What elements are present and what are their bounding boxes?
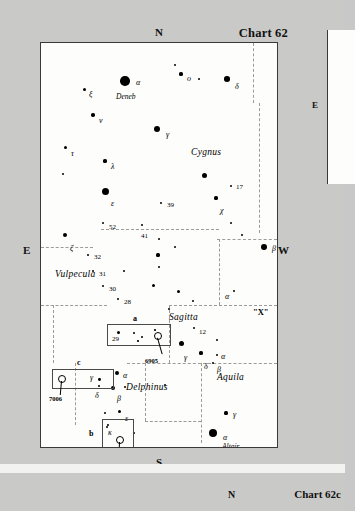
proper-name-label: Deneb xyxy=(116,93,136,101)
star-label-12-aquilae: 12 xyxy=(199,329,206,336)
star-label-gamma-sagittae: γ xyxy=(184,354,187,362)
star-label-beta-cygni-albireo: β xyxy=(272,245,276,253)
star-field-star-j xyxy=(177,290,180,293)
star-alpha-delphini xyxy=(115,371,119,375)
constellation-label-sagitta: Sagitta xyxy=(169,313,198,323)
constellation-boundary xyxy=(253,43,254,103)
star-label-epsilon-cygni: ε xyxy=(111,200,114,208)
star-label-delta-cygni: δ xyxy=(235,83,239,91)
chart-panel-62: Chart 62 N S E W αξνοδγτλ17εχ395241ζβ323… xyxy=(22,22,290,470)
constellation-boundary xyxy=(217,239,277,240)
star-field-star-m xyxy=(216,339,219,342)
star-label-delta-delphini: δ xyxy=(95,392,99,400)
page-title: Chart 62 xyxy=(239,26,288,41)
neighbor-cardinal-east: E xyxy=(312,100,318,110)
constellation-boundary xyxy=(169,305,277,306)
star-field-star-f xyxy=(241,234,243,236)
neighbor-cardinal-north: N xyxy=(228,489,235,500)
inset-star xyxy=(154,329,156,331)
star-label-31-cygni: 31 xyxy=(99,271,106,278)
constellation-boundary xyxy=(259,103,260,233)
star-delta-cygni xyxy=(224,76,230,82)
star-epsilon-delphini xyxy=(118,410,121,413)
neighbor-chart-title: Chart 62c xyxy=(294,488,341,500)
star-label-52-cygni: 52 xyxy=(109,224,116,231)
star-32-cygni xyxy=(87,254,90,257)
constellation-boundary xyxy=(219,239,220,305)
star-17-cygni xyxy=(230,185,233,188)
star-field-star-g xyxy=(123,270,125,272)
inset-star-label: γ xyxy=(90,374,93,382)
star-field-star-a xyxy=(174,64,176,66)
star-label-beta-delphini: β xyxy=(117,395,121,403)
star-epsilon-cygni xyxy=(102,188,109,195)
star-beta-cygni-albireo xyxy=(261,244,267,250)
proper-name-label: Altair xyxy=(222,443,240,448)
constellation-label-delphinus: Delphinus xyxy=(126,383,168,393)
constellation-boundary xyxy=(145,421,201,422)
star-alpha-vulpeculae xyxy=(233,290,236,293)
star-label-32-cygni: 32 xyxy=(94,254,101,261)
ngc-label-7006: 7006 xyxy=(49,396,62,403)
star-label-tau-cygni: τ xyxy=(71,150,74,158)
star-tau-cygni xyxy=(64,146,67,149)
star-label-zeta-cygni: ζ xyxy=(70,245,73,253)
star-gamma-cygni xyxy=(154,126,160,132)
inset-id-a: a xyxy=(133,315,137,323)
constellation-boundary xyxy=(41,305,107,306)
star-field-star-h xyxy=(158,266,161,269)
star-field-star-d xyxy=(202,173,207,178)
star-lambda-cygni xyxy=(103,159,106,162)
star-label-alpha-cygni-deneb: α xyxy=(136,79,140,87)
inset-star xyxy=(98,378,101,381)
star-label-xi-cygni: ξ xyxy=(89,91,92,99)
inset-star xyxy=(141,336,143,338)
star-label-delta-sagittae: δ xyxy=(204,363,208,371)
star-12-aquilae xyxy=(193,327,196,330)
star-field-star-t xyxy=(156,253,159,256)
star-label-nu-cygni: ν xyxy=(99,117,103,125)
star-label-28-vulpeculae: 28 xyxy=(124,299,131,306)
star-alpha-cygni-deneb xyxy=(120,76,130,86)
star-xi-cygni xyxy=(83,88,86,91)
star-map-frame: αξνοδγτλ17εχ395241ζβ32313028α12γδαβαβδεκ… xyxy=(40,42,278,448)
star-label-gamma-aquilae: γ xyxy=(233,411,236,419)
inset-id-b: b xyxy=(89,430,93,438)
constellation-boundary xyxy=(53,305,54,363)
star-41-cygni xyxy=(141,224,144,227)
star-alpha-aquilae-altair xyxy=(209,429,217,437)
star-label-alpha-sagittae: α xyxy=(221,353,225,361)
star-label-lambda-cygni: λ xyxy=(111,163,114,171)
star-gamma-aquilae xyxy=(224,411,227,414)
cardinal-north: N xyxy=(155,26,163,38)
inset-star xyxy=(133,332,135,334)
constellation-label-cygnus: Cygnus xyxy=(191,148,221,158)
cardinal-east: E xyxy=(23,244,30,256)
star-delta-sagittae xyxy=(199,351,202,354)
star-field-star-k xyxy=(192,300,195,303)
inset-id-c: c xyxy=(77,359,81,367)
star-label-alpha-aquilae-altair: α xyxy=(223,434,227,442)
star-field-star-s xyxy=(174,246,177,249)
inset-star xyxy=(107,424,109,426)
star-field-star-i xyxy=(152,284,155,287)
star-label-omicron-cygni: ο xyxy=(187,75,191,83)
inset-star-label: 29 xyxy=(112,336,119,343)
star-label-gamma-cygni: γ xyxy=(166,131,169,139)
star-gamma-sagittae xyxy=(179,341,184,346)
star-label-39-cygni: 39 xyxy=(167,202,174,209)
neighbor-chart-panel-bottom: N Chart 62c xyxy=(180,473,345,511)
star-field-star-b xyxy=(198,78,200,80)
star-omicron-cygni xyxy=(179,72,182,75)
constellation-label-aquila: Aquila xyxy=(217,373,244,383)
star-field-star-e xyxy=(230,222,232,224)
asterism-label-x: "X" xyxy=(253,308,269,317)
neighbor-star-field-right xyxy=(327,30,355,184)
star-alpha-sagittae xyxy=(216,354,219,357)
star-zeta-cygni xyxy=(63,233,68,238)
star-label-17-cygni: 17 xyxy=(236,184,243,191)
star-field-star-u xyxy=(158,238,160,240)
star-chi-cygni xyxy=(214,196,217,199)
star-30-vulpeculae xyxy=(102,285,105,288)
